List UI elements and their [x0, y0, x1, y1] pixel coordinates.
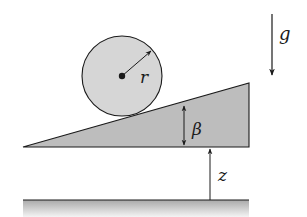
- radius-label: r: [140, 67, 149, 87]
- cylinder-on-wedge-diagram: r β z g: [0, 0, 307, 217]
- ground-shading: [23, 200, 249, 217]
- gravity-label: g: [279, 23, 291, 44]
- height-label: z: [217, 165, 228, 185]
- cylinder: r: [82, 36, 162, 116]
- ground: [23, 200, 249, 217]
- gravity-indicator: g: [272, 14, 291, 75]
- height-indicator: z: [210, 149, 228, 200]
- angle-label: β: [191, 119, 202, 139]
